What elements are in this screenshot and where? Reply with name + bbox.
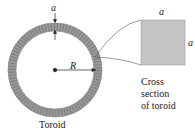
cross-caption-line3: of toroid: [141, 100, 176, 111]
cross-caption-line2: section: [141, 88, 169, 99]
cross-section-square: [141, 20, 185, 65]
label-radius-R: R: [70, 60, 76, 71]
diagram-graphics: [0, 0, 195, 137]
toroid-caption: Toroid: [39, 119, 66, 130]
cross-section-connectors: [95, 20, 141, 65]
cross-caption-line1: Cross: [141, 76, 164, 87]
label-cross-height-a: a: [188, 37, 193, 48]
label-thickness-a: a: [51, 2, 56, 13]
toroid-diagram: a R Toroid a a Cross section of toroid: [0, 0, 195, 137]
label-cross-width-a: a: [159, 6, 164, 17]
